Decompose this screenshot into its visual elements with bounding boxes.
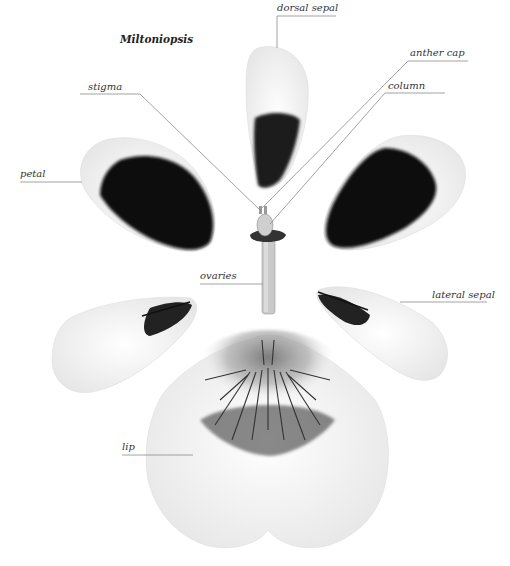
- orchid-diagram: Miltoniopsis dorsal sepal anther cap sti…: [0, 0, 510, 566]
- label-column: column: [388, 80, 425, 92]
- column-ovaries: [250, 206, 286, 314]
- diagram-title: Miltoniopsis: [120, 33, 193, 45]
- lip: [146, 330, 388, 548]
- label-lateral-sepal: lateral sepal: [432, 289, 495, 301]
- flower-illustration: [0, 0, 510, 566]
- label-petal: petal: [20, 168, 46, 180]
- label-lip: lip: [122, 441, 135, 453]
- label-dorsal-sepal: dorsal sepal: [277, 2, 338, 14]
- petal-left: [81, 138, 215, 251]
- label-ovaries: ovaries: [200, 270, 237, 282]
- dorsal-sepal: [246, 47, 308, 188]
- petal-right: [324, 135, 466, 250]
- label-anther-cap: anther cap: [410, 47, 465, 59]
- lateral-sepal-left: [52, 297, 197, 392]
- label-stigma: stigma: [88, 81, 122, 93]
